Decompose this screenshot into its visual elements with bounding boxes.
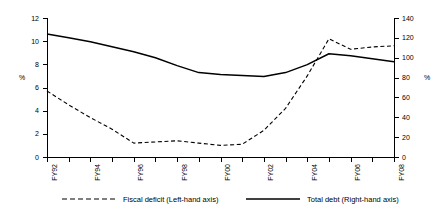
right-axis-tick-label: 140 xyxy=(402,15,430,22)
x-axis-tick xyxy=(47,158,48,162)
right-axis-tick xyxy=(395,18,399,19)
x-axis-tick xyxy=(329,158,330,162)
right-axis-tick xyxy=(395,58,399,59)
right-axis-tick-label: 100 xyxy=(402,54,430,61)
right-axis-tick xyxy=(395,78,399,79)
x-axis-tick xyxy=(221,158,222,162)
x-axis-tick xyxy=(177,158,178,162)
x-axis-tick-label: FY94 xyxy=(94,164,101,181)
right-axis-tick xyxy=(395,117,399,118)
legend-label-total-debt: Total debt (Right-hand axis) xyxy=(307,195,399,204)
left-axis-tick-label: 2 xyxy=(13,130,39,137)
x-axis-tick-label: FY06 xyxy=(354,164,361,181)
left-axis-tick-label: 12 xyxy=(13,15,39,22)
right-axis-tick-label: 120 xyxy=(402,34,430,41)
x-axis-tick xyxy=(69,158,70,162)
right-axis-tick-label: 40 xyxy=(402,114,430,121)
right-axis-tick xyxy=(395,157,399,158)
right-axis-line xyxy=(394,18,395,157)
legend-swatch-solid-icon xyxy=(246,194,300,204)
x-axis-tick xyxy=(307,158,308,162)
x-axis-tick xyxy=(351,158,352,162)
right-axis-tick xyxy=(395,97,399,98)
series-line-total-debt xyxy=(47,34,394,77)
plot-area xyxy=(47,18,394,157)
legend-item-fiscal-deficit: Fiscal deficit (Left-hand axis) xyxy=(62,192,218,206)
x-axis-tick-label: FY00 xyxy=(224,164,231,181)
left-axis-tick-label: 6 xyxy=(13,84,39,91)
x-axis-tick xyxy=(112,158,113,162)
x-axis-tick-label: FY08 xyxy=(398,164,405,181)
x-axis-tick-label: FY02 xyxy=(267,164,274,181)
left-axis-tick-label: 10 xyxy=(13,38,39,45)
x-axis-tick-label: FY04 xyxy=(311,164,318,181)
x-axis-tick-label: FY96 xyxy=(137,164,144,181)
x-axis-tick xyxy=(199,158,200,162)
chart-legend: Fiscal deficit (Left-hand axis) Total de… xyxy=(0,192,440,210)
right-axis-tick-label: 80 xyxy=(402,74,430,81)
x-axis-tick xyxy=(264,158,265,162)
x-axis-tick xyxy=(90,158,91,162)
left-axis-tick-label: 4 xyxy=(13,107,39,114)
x-axis-tick xyxy=(394,158,395,162)
x-axis-tick xyxy=(155,158,156,162)
legend-swatch-dashed-icon xyxy=(62,194,116,204)
x-axis-tick xyxy=(134,158,135,162)
right-axis-tick-label: 20 xyxy=(402,134,430,141)
x-axis-tick-label: FY92 xyxy=(51,164,58,181)
x-axis-tick xyxy=(286,158,287,162)
legend-item-total-debt: Total debt (Right-hand axis) xyxy=(246,192,399,206)
right-axis-tick-label: 60 xyxy=(402,94,430,101)
series-lines xyxy=(47,18,394,157)
left-axis-tick-label: 8 xyxy=(13,61,39,68)
x-axis-tick xyxy=(242,158,243,162)
right-axis-tick-label: 0 xyxy=(402,154,430,161)
right-axis-tick xyxy=(395,137,399,138)
left-axis-title: % xyxy=(19,74,25,81)
x-axis-tick xyxy=(372,158,373,162)
legend-label-fiscal-deficit: Fiscal deficit (Left-hand axis) xyxy=(123,195,218,204)
left-axis-tick-label: 0 xyxy=(13,154,39,161)
right-axis-tick xyxy=(395,38,399,39)
x-axis-tick-label: FY98 xyxy=(181,164,188,181)
chart-container: % % 024681012 020406080100120140 FY92FY9… xyxy=(0,0,440,216)
